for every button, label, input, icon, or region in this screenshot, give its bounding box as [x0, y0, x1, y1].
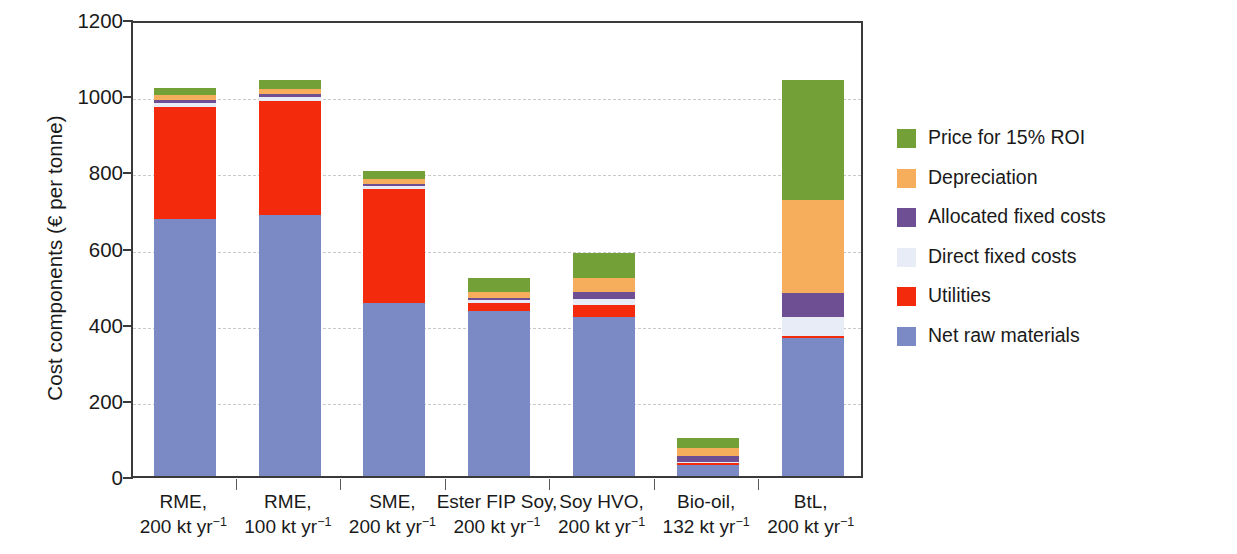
bar-segment-net-raw-materials	[782, 338, 844, 476]
legend-swatch-icon	[897, 208, 916, 227]
bar-segment-price-for-15-roi	[677, 438, 739, 448]
legend-label: Direct fixed costs	[928, 245, 1076, 269]
bar-segment-depreciation	[677, 448, 739, 456]
x-tick-label-4: Ester FIP Soy,200 kt yr−1	[437, 489, 558, 539]
x-axis-separator	[340, 479, 341, 490]
bar-segment-allocated-fixed-costs	[259, 94, 321, 97]
legend: Price for 15% ROIDepreciationAllocated f…	[897, 126, 1227, 363]
bar-segment-price-for-15-roi	[782, 80, 844, 200]
bar-segment-allocated-fixed-costs	[782, 293, 844, 317]
legend-swatch-icon	[897, 169, 916, 188]
x-label-line1: Ester FIP Soy,	[437, 491, 558, 512]
legend-swatch-icon	[897, 287, 916, 306]
bar-segment-price-for-15-roi	[468, 278, 530, 292]
x-tick-label-2: RME,100 kt yr−1	[244, 489, 331, 539]
bar-segment-allocated-fixed-costs	[154, 100, 216, 103]
bar-segment-utilities	[782, 336, 844, 338]
bar-segment-price-for-15-roi	[154, 88, 216, 96]
bar-segment-direct-fixed-costs	[259, 97, 321, 101]
x-label-line2: 200 kt yr−1	[349, 514, 436, 539]
x-label-line1: RME,	[160, 491, 208, 512]
bar-segment-depreciation	[782, 200, 844, 293]
bar-segment-depreciation	[259, 89, 321, 94]
legend-label: Net raw materials	[928, 324, 1080, 348]
bar-segment-direct-fixed-costs	[468, 300, 530, 303]
bar-segment-depreciation	[573, 278, 635, 292]
bar-segment-direct-fixed-costs	[573, 299, 635, 306]
bar-segment-allocated-fixed-costs	[468, 298, 530, 300]
x-label-line2: 200 kt yr−1	[767, 514, 854, 539]
x-tick-label-1: RME,200 kt yr−1	[140, 489, 227, 539]
legend-item-depreciation[interactable]: Depreciation	[897, 166, 1227, 190]
y-axis-title: Cost components (€ per tonne)	[43, 43, 67, 473]
bar-3	[363, 19, 425, 476]
bar-2	[259, 19, 321, 476]
bar-7	[782, 19, 844, 476]
legend-item-allocated-fixed-costs[interactable]: Allocated fixed costs	[897, 205, 1227, 229]
bar-1	[154, 19, 216, 476]
bar-segment-net-raw-materials	[677, 465, 739, 476]
bar-segment-price-for-15-roi	[363, 171, 425, 179]
bar-segment-net-raw-materials	[363, 303, 425, 476]
bar-5	[573, 19, 635, 476]
legend-swatch-icon	[897, 129, 916, 148]
bar-segment-depreciation	[468, 292, 530, 298]
bar-segment-utilities	[468, 303, 530, 311]
x-label-line1: Bio-oil,	[677, 491, 735, 512]
legend-item-utilities[interactable]: Utilities	[897, 284, 1227, 308]
legend-label: Allocated fixed costs	[928, 205, 1106, 229]
bar-segment-price-for-15-roi	[259, 80, 321, 89]
x-label-line2: 200 kt yr−1	[558, 514, 645, 539]
bar-segment-net-raw-materials	[259, 215, 321, 476]
legend-label: Utilities	[928, 284, 991, 308]
legend-item-net-raw-materials[interactable]: Net raw materials	[897, 324, 1227, 348]
x-label-line1: Soy HVO,	[559, 491, 643, 512]
bar-segment-utilities	[154, 107, 216, 219]
legend-swatch-icon	[897, 327, 916, 346]
x-tick-label-7: BtL,200 kt yr−1	[767, 489, 854, 539]
bar-segment-direct-fixed-costs	[363, 186, 425, 189]
x-axis-separator	[654, 479, 655, 490]
x-axis-separator	[758, 479, 759, 490]
x-label-line1: RME,	[264, 491, 312, 512]
x-label-line2: 132 kt yr−1	[663, 514, 750, 539]
bar-segment-net-raw-materials	[154, 219, 216, 476]
x-tick-label-3: SME,200 kt yr−1	[349, 489, 436, 539]
bar-6	[677, 19, 739, 476]
bar-group	[133, 23, 861, 476]
bar-segment-price-for-15-roi	[573, 253, 635, 278]
x-label-line2: 200 kt yr−1	[437, 514, 558, 539]
x-tick-label-5: Soy HVO,200 kt yr−1	[558, 489, 645, 539]
x-label-line1: SME,	[369, 491, 415, 512]
x-label-line2: 100 kt yr−1	[244, 514, 331, 539]
bar-4	[468, 19, 530, 476]
chart-container: Cost components (€ per tonne) 0200400600…	[0, 0, 1237, 554]
bar-segment-net-raw-materials	[573, 317, 635, 476]
x-axis-separator	[236, 479, 237, 490]
x-tick-label-6: Bio-oil,132 kt yr−1	[663, 489, 750, 539]
bar-segment-net-raw-materials	[468, 311, 530, 476]
bar-segment-utilities	[259, 101, 321, 215]
legend-label: Price for 15% ROI	[928, 126, 1085, 150]
bar-segment-allocated-fixed-costs	[677, 456, 739, 461]
bar-segment-allocated-fixed-costs	[573, 292, 635, 298]
bar-segment-direct-fixed-costs	[677, 462, 739, 464]
x-label-line1: BtL,	[794, 491, 828, 512]
legend-swatch-icon	[897, 248, 916, 267]
bar-segment-direct-fixed-costs	[154, 103, 216, 107]
x-label-line2: 200 kt yr−1	[140, 514, 227, 539]
y-tick-label: 1200	[31, 9, 123, 33]
bar-segment-allocated-fixed-costs	[363, 184, 425, 186]
bar-segment-depreciation	[154, 95, 216, 100]
legend-item-direct-fixed-costs[interactable]: Direct fixed costs	[897, 245, 1227, 269]
bar-segment-utilities	[573, 305, 635, 316]
legend-item-price-for-15-roi[interactable]: Price for 15% ROI	[897, 126, 1227, 150]
bar-segment-utilities	[677, 463, 739, 465]
plot-area	[131, 21, 863, 478]
legend-label: Depreciation	[928, 166, 1037, 190]
bar-segment-direct-fixed-costs	[782, 317, 844, 336]
bar-segment-utilities	[363, 189, 425, 303]
bar-segment-depreciation	[363, 179, 425, 184]
